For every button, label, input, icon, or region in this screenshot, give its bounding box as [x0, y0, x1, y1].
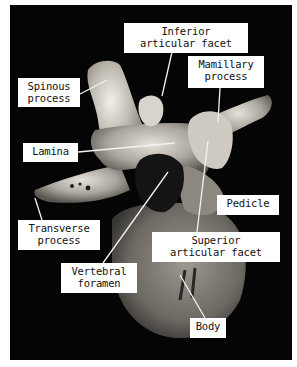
leader-inferior-articular-facet — [162, 52, 172, 96]
label-text: Body — [193, 320, 223, 332]
transverse-process-shape — [34, 165, 130, 203]
leader-transverse-process — [35, 198, 42, 220]
label-lamina: Lamina — [23, 143, 78, 162]
label-text: Vertebral — [64, 265, 134, 277]
inferior-articular-facet-shape — [138, 95, 163, 126]
label-superior-articular-facet: Superior articular facet — [152, 232, 280, 262]
label-text: process — [21, 234, 97, 246]
label-inferior-articular-facet: Inferior articular facet — [124, 23, 248, 53]
label-pedicle: Pedicle — [217, 195, 279, 215]
label-text: foramen — [64, 277, 134, 289]
label-text: Pedicle — [220, 197, 276, 209]
label-text: Superior — [155, 234, 277, 246]
label-text: Lamina — [26, 145, 75, 157]
label-text: process — [191, 70, 261, 82]
label-text: Inferior — [127, 25, 245, 37]
label-text: Mamillary — [191, 58, 261, 70]
label-mamillary-process: Mamillary process — [188, 56, 264, 88]
label-text: articular facet — [155, 246, 277, 258]
label-text: Transverse — [21, 222, 97, 234]
label-text: Spinous — [21, 80, 77, 92]
label-spinous-process: Spinous process — [18, 78, 80, 107]
label-body: Body — [190, 318, 226, 338]
label-transverse-process: Transverse process — [18, 220, 100, 250]
label-vertebral-foramen: Vertebral foramen — [61, 263, 137, 293]
label-text: process — [21, 92, 77, 104]
label-text: articular facet — [127, 37, 245, 49]
